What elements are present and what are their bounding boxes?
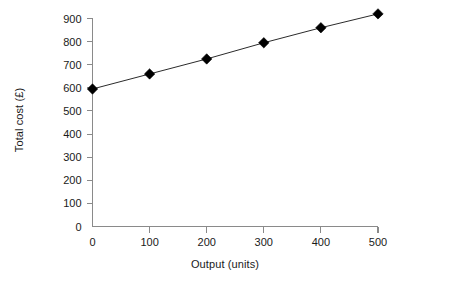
y-axis-tick-label: 400: [63, 128, 81, 140]
y-axis-tick-label: 300: [63, 151, 81, 163]
y-axis-tick-label: 800: [63, 36, 81, 48]
series-line: [93, 14, 379, 89]
data-point-marker: [316, 23, 326, 33]
x-axis-tick-label: 200: [198, 236, 216, 248]
data-series: [87, 9, 383, 95]
y-axis-tick-label: 600: [63, 82, 81, 94]
x-axis-tick-label: 0: [89, 236, 95, 248]
y-axis-tick-label: 0: [75, 221, 81, 233]
y-axis-tick-label: 900: [63, 13, 81, 25]
x-axis-tick-label: 400: [312, 236, 330, 248]
x-axis-tick-label: 300: [255, 236, 273, 248]
y-axis-tick-label: 500: [63, 105, 81, 117]
y-axis-tick-label: 200: [63, 174, 81, 186]
data-point-marker: [373, 9, 383, 19]
y-axis: 0100200300400500600700800900: [63, 13, 92, 233]
x-axis-tick-label: 100: [140, 236, 158, 248]
plot-area: 0100200300400500600700800900 01002003004…: [0, 0, 450, 283]
chart-container: Total cost (£) Output (units) 0100200300…: [0, 0, 450, 283]
data-point-marker: [144, 69, 154, 79]
data-point-marker: [202, 54, 212, 64]
data-point-marker: [87, 84, 97, 94]
y-axis-tick-label: 100: [63, 197, 81, 209]
y-axis-tick-label: 700: [63, 59, 81, 71]
x-axis: 0100200300400500: [89, 227, 387, 248]
x-axis-tick-label: 500: [369, 236, 387, 248]
data-point-marker: [259, 38, 269, 48]
